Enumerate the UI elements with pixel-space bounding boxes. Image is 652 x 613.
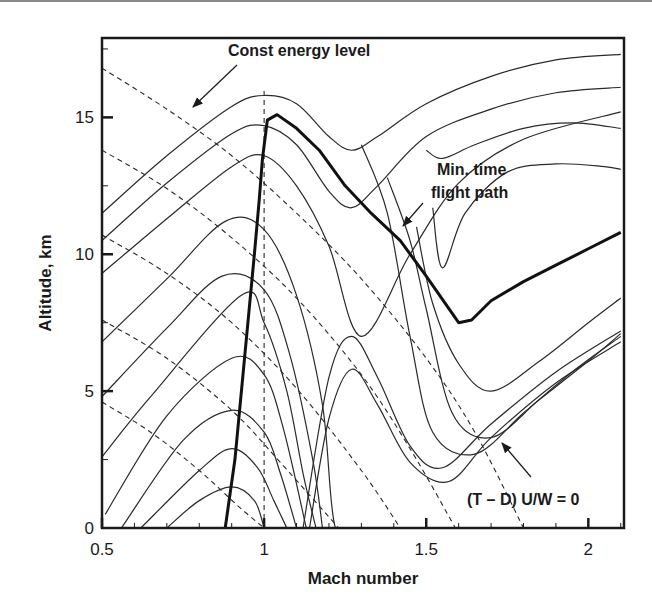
x-tick-label: 2: [584, 540, 593, 559]
min-time-arrow: [403, 203, 423, 226]
contour-line: [102, 54, 621, 213]
contour-line: [121, 410, 296, 528]
y-axis-label: Altitude, km: [36, 234, 55, 331]
const-energy-annotation: Const energy level: [228, 42, 370, 59]
contour-line: [167, 487, 264, 528]
y-tick-label: 15: [75, 108, 94, 127]
x-axis-label: Mach number: [308, 569, 419, 588]
x-tick-label: 0.5: [90, 540, 114, 559]
y-tick-label: 10: [75, 245, 94, 264]
contour-line: [141, 449, 287, 528]
min-time-flight-path: [225, 115, 621, 528]
contour-line: [433, 164, 621, 268]
x-tick-label: 1: [259, 540, 268, 559]
x-tick-label: 1.5: [414, 540, 438, 559]
zero-contour-annotation: (T – D) U/W = 0: [467, 491, 580, 508]
y-tick-label: 0: [85, 519, 94, 538]
zero-contour-arrow: [502, 443, 531, 477]
y-tick-label: 5: [85, 382, 94, 401]
y-axis-ticks: 051015: [75, 49, 113, 538]
contour-line: [426, 123, 621, 159]
contour-line: [105, 356, 306, 528]
chart-canvas: 0.511.52 051015 Mach number Altitude, km…: [0, 0, 652, 613]
excess-power-contours: [102, 54, 621, 537]
energy-level-line: [102, 150, 455, 528]
min-time-annotation-line1: Min. time: [437, 161, 506, 178]
contour-line: [102, 292, 316, 528]
x-axis-ticks: 0.511.52: [90, 518, 621, 559]
contour-line: [416, 227, 620, 391]
energy-level-line: [102, 320, 339, 528]
const-energy-arrow: [193, 65, 237, 107]
min-time-annotation-line2: flight path: [431, 184, 508, 201]
